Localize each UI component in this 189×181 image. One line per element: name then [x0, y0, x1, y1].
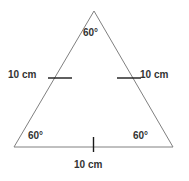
bottom-left-angle-label: 60°: [28, 130, 43, 141]
left-side-length-label: 10 cm: [8, 69, 36, 80]
right-side-length-label: 10 cm: [140, 69, 168, 80]
bottom-right-angle-label: 60°: [133, 130, 148, 141]
apex-angle-label: 60°: [83, 27, 98, 38]
triangle-diagram: 60° 60° 60° 10 cm 10 cm 10 cm: [0, 0, 189, 181]
bottom-side-length-label: 10 cm: [74, 159, 102, 170]
